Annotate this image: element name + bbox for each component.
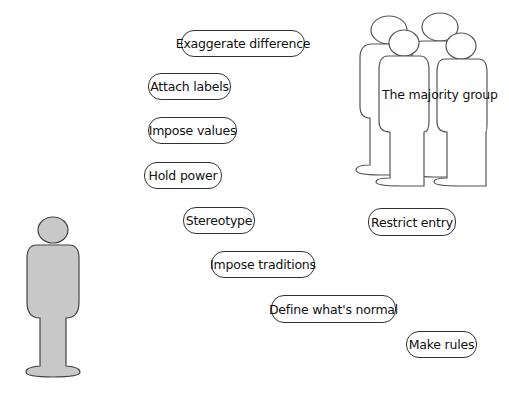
action-pill-impose-values: Impose values <box>148 117 237 144</box>
action-pill-impose-traditions: Impose traditions <box>211 251 315 278</box>
action-pill-hold-power: Hold power <box>144 162 222 189</box>
action-pill-restrict-entry: Restrict entry <box>368 208 456 236</box>
majority-group-label: The majority group <box>382 87 498 102</box>
action-pill-make-rules: Make rules <box>406 331 477 358</box>
action-pill-stereotype: Stereotype <box>183 207 255 234</box>
minority-figure <box>26 217 80 377</box>
action-pill-exaggerate-difference: Exaggerate difference <box>181 30 305 57</box>
action-pill-attach-labels: Attach labels <box>148 73 231 100</box>
action-pill-define-what-s-normal: Define what's normal <box>271 295 396 323</box>
